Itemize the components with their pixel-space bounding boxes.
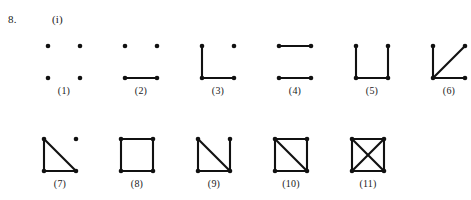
graph-vertex	[74, 169, 79, 174]
graph-figure-1: (1)	[42, 40, 86, 96]
graph-vertex	[119, 169, 124, 174]
graph-drawing	[42, 40, 86, 84]
graph-vertex	[386, 76, 391, 81]
graph-vertex	[78, 44, 83, 49]
graph-vertex	[273, 169, 278, 174]
graph-vertex	[463, 76, 468, 81]
graph-edge	[433, 46, 465, 78]
graph-vertex	[123, 76, 128, 81]
figure-caption: (3)	[212, 85, 224, 96]
graph-edge	[44, 139, 76, 171]
graph-figure-11: (11)	[346, 133, 390, 189]
figure-caption: (2)	[135, 85, 147, 96]
problem-number: 8.	[8, 13, 17, 25]
graph-vertex	[305, 137, 310, 142]
graph-vertex	[228, 137, 233, 142]
graph-vertex	[151, 137, 156, 142]
figure-caption: (8)	[131, 178, 143, 189]
graph-vertex	[151, 169, 156, 174]
graph-vertex	[78, 76, 83, 81]
graph-vertex	[354, 44, 359, 49]
figure-caption: (4)	[289, 85, 301, 96]
graph-vertex	[350, 169, 355, 174]
graph-vertex	[42, 169, 47, 174]
graph-figure-8: (8)	[115, 133, 159, 189]
figure-caption: (5)	[366, 85, 378, 96]
graph-vertex	[200, 76, 205, 81]
graph-vertex	[42, 137, 47, 142]
graph-vertex	[463, 44, 468, 49]
figure-caption: (10)	[282, 178, 299, 189]
graph-vertex	[196, 169, 201, 174]
graph-vertex	[228, 169, 233, 174]
graph-vertex	[232, 44, 237, 49]
graph-vertex	[119, 137, 124, 142]
graph-vertex	[74, 137, 79, 142]
graph-vertex	[46, 44, 51, 49]
graph-vertex	[200, 44, 205, 49]
graph-drawing	[38, 133, 82, 177]
graph-figure-row-top: (1)(2)(3)(4)(5)(6)	[0, 40, 467, 96]
graph-figure-3: (3)	[196, 40, 240, 96]
graph-vertex	[155, 44, 160, 49]
graph-vertex	[309, 76, 314, 81]
figure-caption: (7)	[54, 178, 66, 189]
graph-drawing	[192, 133, 236, 177]
graph-figure-9: (9)	[192, 133, 236, 189]
graph-figure-10: (10)	[269, 133, 313, 189]
graph-figure-5: (5)	[350, 40, 394, 96]
graph-vertex	[196, 137, 201, 142]
figure-caption: (9)	[208, 178, 220, 189]
graph-figure-2: (2)	[119, 40, 163, 96]
graph-figure-row-bottom: (7)(8)(9)(10)(11)	[0, 133, 463, 189]
graph-drawing	[269, 133, 313, 177]
graph-edge	[275, 139, 307, 171]
graph-drawing	[273, 40, 317, 84]
figure-caption: (1)	[58, 85, 70, 96]
graph-figure-7: (7)	[38, 133, 82, 189]
graph-vertex	[277, 44, 282, 49]
part-label: (i)	[52, 13, 63, 25]
figure-caption: (6)	[443, 85, 455, 96]
graph-vertex	[386, 44, 391, 49]
graph-vertex	[155, 76, 160, 81]
graph-drawing	[196, 40, 240, 84]
figure-caption: (11)	[359, 178, 376, 189]
graph-vertex	[382, 169, 387, 174]
graph-drawing	[346, 133, 390, 177]
graph-figure-4: (4)	[273, 40, 317, 96]
graph-figure-6: (6)	[427, 40, 471, 96]
graph-vertex	[431, 76, 436, 81]
graph-vertex	[305, 169, 310, 174]
graph-vertex	[382, 137, 387, 142]
graph-drawing	[427, 40, 471, 84]
graph-vertex	[46, 76, 51, 81]
graph-edge	[198, 139, 230, 171]
graph-vertex	[232, 76, 237, 81]
graph-vertex	[350, 137, 355, 142]
graph-drawing	[115, 133, 159, 177]
graph-drawing	[350, 40, 394, 84]
graph-drawing	[119, 40, 163, 84]
graph-vertex	[273, 137, 278, 142]
graph-vertex	[431, 44, 436, 49]
graph-vertex	[309, 44, 314, 49]
graph-vertex	[354, 76, 359, 81]
graph-vertex	[277, 76, 282, 81]
graph-vertex	[123, 44, 128, 49]
